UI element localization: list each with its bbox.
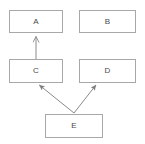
diagram-canvas: A B C D E — [0, 0, 145, 144]
node-box-d[interactable]: D — [79, 59, 136, 83]
node-label-a: A — [33, 18, 39, 26]
node-label-c: C — [33, 67, 39, 75]
node-box-a[interactable]: A — [9, 10, 63, 33]
node-label-d: D — [105, 67, 111, 75]
node-label-e: E — [71, 122, 77, 130]
edge-e-to-d — [74, 85, 96, 113]
node-label-b: B — [105, 18, 111, 26]
node-box-c[interactable]: C — [9, 59, 63, 83]
edge-e-to-c — [40, 85, 75, 113]
node-box-e[interactable]: E — [45, 114, 103, 138]
node-box-b[interactable]: B — [79, 10, 136, 33]
